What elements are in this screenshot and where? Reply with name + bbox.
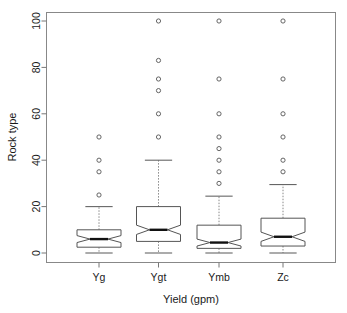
x-tick-label-ygt: Ygt: [151, 271, 167, 283]
x-tick-label-zc: Zc: [277, 271, 289, 283]
y-tick-label: 20: [30, 201, 42, 213]
box-notched-body: [261, 218, 305, 246]
y-tick-label: 80: [30, 61, 42, 73]
box-notched-body: [197, 225, 241, 248]
y-tick-label: 0: [30, 250, 42, 256]
x-tick-label-ymb: Ymb: [208, 271, 230, 283]
y-tick-label: 60: [30, 108, 42, 120]
y-axis-label: Rock type: [6, 113, 18, 162]
box-notched-body: [137, 207, 181, 242]
y-tick-label: 40: [30, 154, 42, 166]
x-axis-label: Yield (gpm): [163, 293, 219, 305]
chart-background: [0, 0, 347, 313]
boxplot-chart: 020406080100 YgYgtYmbZc Rock type Yield …: [0, 0, 347, 313]
x-tick-label-yg: Yg: [93, 271, 106, 283]
y-tick-label: 100: [30, 12, 42, 30]
